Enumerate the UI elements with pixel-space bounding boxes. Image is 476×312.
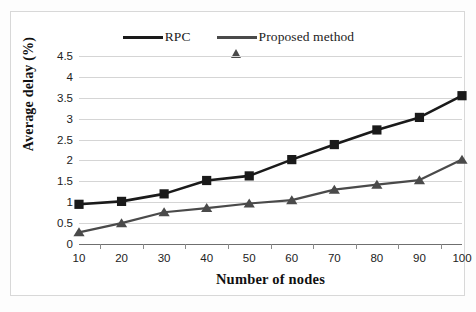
x-axis-tick-label: 30 [144, 252, 184, 264]
x-axis-tick [313, 244, 314, 249]
data-point-square [330, 140, 339, 149]
x-axis-tick-label: 40 [187, 252, 227, 264]
x-axis-tick-label: 50 [229, 252, 269, 264]
series-layer [79, 56, 462, 244]
y-axis-title: Average delay (%) [21, 24, 37, 164]
data-point-square [415, 113, 424, 122]
x-axis-tick [228, 244, 229, 249]
x-axis-tick-label: 20 [102, 252, 142, 264]
x-axis-tick [271, 244, 272, 249]
x-axis-tick [100, 244, 101, 249]
data-point-square [372, 125, 381, 134]
x-axis-tick [356, 244, 357, 249]
plot-area [79, 56, 462, 244]
x-axis-tick-label: 10 [59, 252, 99, 264]
data-point-square [160, 189, 169, 198]
x-axis-tick-label: 70 [314, 252, 354, 264]
x-axis-tick [441, 244, 442, 249]
data-point-square [117, 197, 126, 206]
x-axis-tick-labels: 102030405060708090100 [79, 252, 462, 270]
data-point-square [74, 200, 83, 209]
y-axis-tick-label: 1 [13, 196, 73, 208]
x-axis-tick [185, 244, 186, 249]
series-line [79, 96, 462, 205]
data-point-square [245, 171, 254, 180]
x-axis-tick-label: 80 [357, 252, 397, 264]
data-point-square [287, 155, 296, 164]
series-rpc [74, 91, 466, 209]
x-axis-tick-label: 60 [272, 252, 312, 264]
x-axis-tick [143, 244, 144, 249]
x-axis-tick-label: 100 [442, 252, 476, 264]
chart-frame: RPC Proposed method 00.511.522.533.544.5 [10, 11, 465, 296]
y-axis-tick-label: 0 [13, 238, 73, 250]
data-point-square [457, 91, 466, 100]
x-axis-title: Number of nodes [79, 271, 462, 288]
x-axis-tick-label: 90 [399, 252, 439, 264]
plot-wrapper: 00.511.522.533.544.5 1020304050607080901… [11, 12, 466, 297]
x-axis-tick [398, 244, 399, 249]
y-axis-tick-label: 0.5 [13, 217, 73, 229]
data-point-square [202, 176, 211, 185]
y-axis-tick-label: 1.5 [13, 175, 73, 187]
series-line [79, 160, 462, 233]
figure-canvas: RPC Proposed method 00.511.522.533.544.5 [0, 0, 476, 312]
data-point-triangle [456, 155, 467, 164]
